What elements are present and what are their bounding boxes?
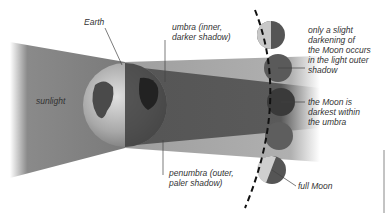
moon-4	[265, 122, 293, 150]
umbra-label: umbra (inner, darker shadow)	[172, 22, 231, 42]
penumbra-label: penumbra (outer, paler shadow)	[169, 168, 234, 188]
earth-label: Earth	[84, 17, 104, 27]
sunlight-label: sunlight	[36, 96, 65, 106]
slight-darkening-label: only a slight darkening of the Moon occu…	[308, 25, 371, 75]
moon-darkest-label: the Moon is darkest within the umbra	[308, 97, 360, 127]
lunar-eclipse-diagram: Earth sunlight umbra (inner, darker shad…	[0, 0, 386, 213]
full-moon-label: full Moon	[298, 181, 333, 191]
